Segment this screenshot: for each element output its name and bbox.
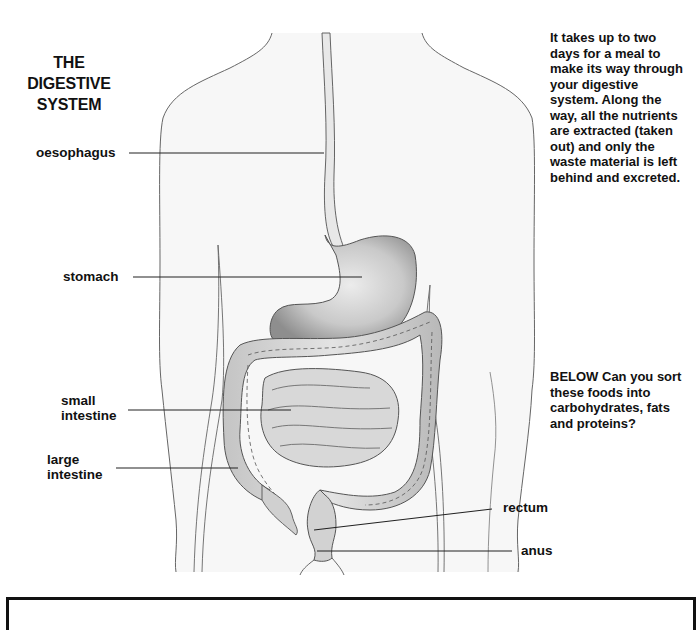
small-intestine-organ <box>261 369 399 467</box>
label-small-intestine-line-2: intestine <box>61 408 117 423</box>
label-large-intestine-line-1: large <box>47 452 103 467</box>
intro-line: days for a meal to <box>550 46 695 62</box>
prompt-line: BELOW Can you sort <box>550 369 695 385</box>
intro-line: out) and only the <box>550 139 695 155</box>
label-anus: anus <box>521 543 553 558</box>
prompt-line: and proteins? <box>550 416 695 432</box>
intro-line: make its way through <box>550 61 695 77</box>
intro-line: are extracted (taken <box>550 123 695 139</box>
bottom-panel-border <box>6 597 696 630</box>
intro-line: behind and excreted. <box>550 170 695 186</box>
label-large-intestine-line-2: intestine <box>47 467 103 482</box>
intro-line: way, all the nutrients <box>550 108 695 124</box>
label-large-intestine: large intestine <box>47 452 103 482</box>
prompt-line: carbohydrates, fats <box>550 400 695 416</box>
intro-line: waste material is left <box>550 154 695 170</box>
intro-line: It takes up to two <box>550 30 695 46</box>
label-oesophagus: oesophagus <box>36 145 116 160</box>
prompt-line: these foods into <box>550 385 695 401</box>
label-small-intestine: small intestine <box>61 393 117 423</box>
label-stomach: stomach <box>63 269 119 284</box>
intro-line: your digestive <box>550 77 695 93</box>
intro-paragraph: It takes up to two days for a meal to ma… <box>550 30 695 185</box>
label-rectum: rectum <box>503 500 548 515</box>
intro-line: system. Along the <box>550 92 695 108</box>
label-small-intestine-line-1: small <box>61 393 117 408</box>
prompt-paragraph: BELOW Can you sort these foods into carb… <box>550 369 695 431</box>
